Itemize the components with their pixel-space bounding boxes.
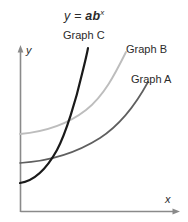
title-equation: y = abx: [64, 9, 105, 23]
equation-equals: =: [70, 9, 85, 23]
equation-exponent: x: [100, 8, 104, 17]
curve-graph-a: [20, 82, 148, 163]
y-axis-arrowhead: [18, 45, 24, 53]
x-axis-label: x: [165, 194, 171, 205]
curve-label-graph-a: Graph A: [131, 74, 171, 85]
equation-base: ab: [85, 9, 100, 23]
exponential-graphs-figure: y = abx Graph C Graph B Graph A y x: [0, 0, 188, 222]
x-axis-arrowhead: [173, 209, 181, 215]
curve-label-graph-b: Graph B: [126, 44, 167, 55]
y-axis-label: y: [26, 45, 32, 56]
curve-graph-b: [20, 52, 126, 134]
curve-label-graph-c: Graph C: [63, 30, 105, 41]
